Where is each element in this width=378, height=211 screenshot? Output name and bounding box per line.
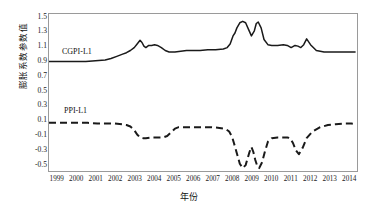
y-axis-tick-label: 1.5 xyxy=(23,13,47,21)
y-axis-tick-label: 0.9 xyxy=(23,57,47,65)
y-axis-tick-label: 1.1 xyxy=(23,42,47,50)
series-canvas xyxy=(49,14,357,171)
x-axis-tick-labels: 1999200020012002200320042005200620072008… xyxy=(48,175,358,189)
plot-area xyxy=(48,13,358,172)
x-axis-title: 年份 xyxy=(0,190,378,203)
y-axis-tick-label: -0.3 xyxy=(23,146,47,154)
series-label-ppi-l1: PPI-L1 xyxy=(64,106,87,115)
series-line-ppi-l1 xyxy=(49,123,356,168)
chart-container: 膨胀系数参数值 1.51.31.10.90.70.50.30.1-0.1-0.3… xyxy=(0,0,378,211)
y-axis-tick-label: 0.1 xyxy=(23,116,47,124)
y-axis-tick-label: 0.5 xyxy=(23,87,47,95)
y-axis-tick-label: -0.5 xyxy=(23,161,47,169)
y-axis-tick-label: -0.1 xyxy=(23,131,47,139)
x-axis-tick-label: 2014 xyxy=(336,175,362,183)
series-label-cgpi-l1: CGPI-L1 xyxy=(62,47,92,56)
y-axis-tick-label: 0.3 xyxy=(23,101,47,109)
series-line-cgpi-l1 xyxy=(49,21,355,61)
y-axis-tick-label: 1.3 xyxy=(23,27,47,35)
y-axis-tick-label: 0.7 xyxy=(23,72,47,80)
